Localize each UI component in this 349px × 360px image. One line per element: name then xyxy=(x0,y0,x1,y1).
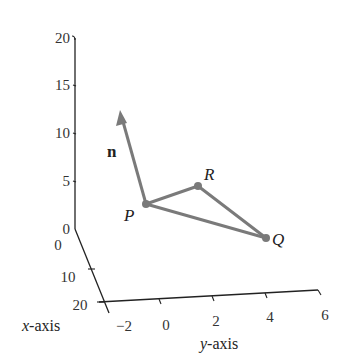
x-tick-10: 10 xyxy=(61,269,76,285)
y-tick-0: 0 xyxy=(162,317,170,333)
point-p-label: P xyxy=(123,206,134,225)
x-axis: 0 10 20 x-axis xyxy=(21,229,109,334)
point-r xyxy=(194,182,202,190)
diagram-canvas: 0 5 10 15 20 0 10 20 x-axis −2 0 2 4 6 y… xyxy=(0,0,349,360)
z-tick-20: 20 xyxy=(55,30,70,46)
point-r-label: R xyxy=(203,165,215,184)
triangle-pqr xyxy=(146,186,266,238)
normal-vector-label: n xyxy=(107,142,117,161)
y-axis: −2 0 2 4 6 y-axis xyxy=(99,290,329,353)
z-tick-5: 5 xyxy=(63,173,71,189)
normal-vector: n xyxy=(107,110,146,204)
x-tick-0: 0 xyxy=(54,237,62,253)
arrowhead-icon xyxy=(116,110,127,126)
y-tick-6: 6 xyxy=(321,307,329,323)
point-q xyxy=(262,234,270,242)
z-tick-15: 15 xyxy=(55,77,70,93)
z-axis: 0 5 10 15 20 xyxy=(55,30,76,237)
y-tick-2: 2 xyxy=(212,313,220,329)
y-axis-title: y-axis xyxy=(198,335,238,353)
x-axis-title: x-axis xyxy=(21,317,60,334)
x-tick-20: 20 xyxy=(73,297,88,313)
y-tick-4: 4 xyxy=(266,309,274,325)
point-p xyxy=(142,200,150,208)
z-tick-0: 0 xyxy=(63,221,71,237)
z-tick-10: 10 xyxy=(55,125,70,141)
point-q-label: Q xyxy=(272,230,284,249)
y-tick-neg2: −2 xyxy=(116,318,132,334)
